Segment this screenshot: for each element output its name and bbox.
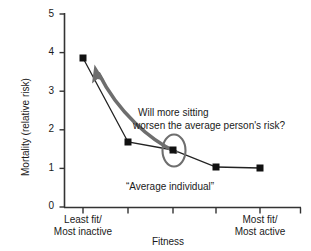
y-tick-label-0: 0 — [40, 200, 54, 212]
x-tick-label-most-fit-line1: Most fit/ — [220, 214, 300, 227]
x-tick-label-least-fit-line2: Most inactive — [43, 226, 123, 239]
data-point-marker — [170, 147, 177, 154]
data-point-marker — [213, 164, 220, 171]
x-axis-ticks — [83, 208, 301, 214]
x-axis-title: Fitness — [128, 236, 208, 248]
data-point-marker — [125, 139, 132, 146]
data-point-marker — [80, 55, 87, 62]
question-annotation-line2: worsen the average person's risk? — [133, 119, 285, 132]
y-axis-title: Mortality (relative risk) — [20, 78, 31, 176]
chart-container: 5 4 3 2 1 0 Mortality (relative risk) Le… — [0, 0, 311, 251]
x-tick-label-least-fit-line1: Least fit/ — [43, 214, 123, 227]
x-tick-label-most-fit-line2: Most active — [220, 226, 300, 239]
y-tick-label-5: 5 — [40, 8, 54, 20]
y-tick-label-4: 4 — [40, 46, 54, 58]
data-point-marker — [257, 165, 264, 172]
y-tick-label-1: 1 — [40, 162, 54, 174]
average-individual-annotation: “Average individual” — [110, 181, 230, 193]
y-tick-label-3: 3 — [40, 85, 54, 97]
y-tick-label-2: 2 — [40, 123, 54, 135]
question-annotation-line1: Will more sitting — [138, 106, 209, 119]
